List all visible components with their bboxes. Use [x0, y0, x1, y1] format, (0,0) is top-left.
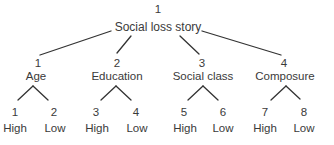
- leaf-label: Low: [126, 122, 147, 135]
- leaf-number: 4: [133, 106, 139, 119]
- edge-social-class-low: [203, 86, 218, 100]
- branch-label-composure: Composure: [255, 70, 314, 83]
- leaf-label: Low: [44, 122, 65, 135]
- leaf-label: High: [3, 122, 27, 135]
- edge-root-education: [117, 36, 131, 53]
- edge-root-social-class: [180, 36, 199, 54]
- branch-label-social-class: Social class: [173, 70, 234, 83]
- root-number: 1: [155, 3, 161, 16]
- edge-social-class-high: [188, 86, 203, 100]
- edge-age-low: [33, 86, 48, 100]
- edge-education-high: [101, 86, 116, 100]
- edge-root-age: [40, 31, 111, 55]
- branch-label-age: Age: [26, 70, 46, 83]
- leaf-number: 1: [12, 106, 18, 119]
- leaf-label: High: [85, 122, 109, 135]
- leaf-number: 8: [301, 106, 307, 119]
- leaf-label: High: [173, 122, 197, 135]
- edge-root-composure: [202, 31, 281, 55]
- branch-label-education: Education: [91, 70, 142, 83]
- edge-age-high: [18, 86, 33, 100]
- root-label: Social loss story: [115, 21, 202, 34]
- leaf-number: 6: [220, 106, 226, 119]
- edge-composure-low: [286, 86, 300, 99]
- leaf-label: High: [253, 122, 277, 135]
- edge-education-low: [116, 86, 131, 100]
- leaf-number: 3: [93, 106, 99, 119]
- branch-number: 3: [199, 57, 205, 70]
- edge-composure-high: [271, 86, 286, 100]
- branch-number: 1: [35, 57, 41, 70]
- leaf-number: 2: [51, 106, 57, 119]
- leaf-label: Low: [293, 122, 314, 135]
- leaf-number: 7: [262, 106, 268, 119]
- leaf-number: 5: [181, 106, 187, 119]
- branch-number: 4: [281, 57, 287, 70]
- leaf-label: Low: [212, 122, 233, 135]
- branch-number: 2: [114, 57, 120, 70]
